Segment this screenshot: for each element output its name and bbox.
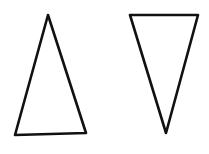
inverted-triangle	[130, 15, 198, 133]
upright-triangle	[15, 15, 86, 135]
diagram-canvas	[0, 0, 209, 154]
